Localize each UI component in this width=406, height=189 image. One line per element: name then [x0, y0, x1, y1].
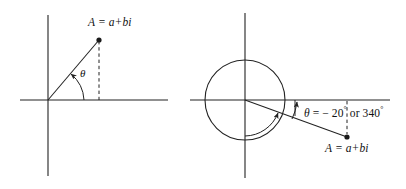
right-point-marker — [344, 134, 349, 139]
right-angle-label: θ = − 20° or 340° — [304, 106, 383, 119]
right-large-angle-arc — [245, 113, 278, 136]
left-point-label: A = a+bi — [88, 17, 132, 29]
left-diagram — [20, 15, 168, 176]
right-point-label: A = a+bi — [325, 143, 369, 155]
complex-number-argand-figure: A = a+bi θ θ = − 20° or 340° A = a+bi — [0, 0, 406, 189]
left-point-marker — [96, 37, 101, 42]
left-angle-label: θ — [80, 68, 85, 79]
right-angle-expression: = − 20° or 340° — [313, 107, 384, 119]
left-vector-line — [48, 40, 99, 100]
figure-canvas — [0, 0, 406, 189]
degree-symbol: ° — [344, 105, 347, 114]
degree-symbol: ° — [380, 105, 383, 114]
